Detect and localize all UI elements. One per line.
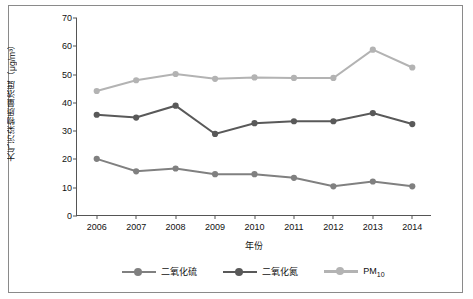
y-axis-tick-mark (73, 131, 77, 132)
y-axis-tick-mark (73, 159, 77, 160)
series-marker (173, 165, 179, 171)
legend-item: PM10 (324, 266, 384, 278)
series-marker (291, 118, 297, 124)
x-axis-tick-mark (333, 215, 334, 219)
series-marker (370, 110, 376, 116)
series-marker (173, 71, 179, 77)
series-marker (330, 183, 336, 189)
legend-label: PM10 (363, 266, 384, 278)
series-marker (94, 156, 100, 162)
y-axis-tick-mark (73, 187, 77, 188)
series-marker (133, 114, 139, 120)
x-axis-tick-mark (175, 215, 176, 219)
series-marker (212, 76, 218, 82)
series-marker (212, 171, 218, 177)
chart-legend: 二氧化硫二氧化氮PM10 (76, 265, 431, 278)
y-axis-tick-mark (73, 18, 77, 19)
series-line (97, 50, 413, 91)
legend-label: 二氧化氮 (262, 265, 298, 278)
y-axis-tick-mark (73, 102, 77, 103)
series-marker (94, 88, 100, 94)
series-marker (133, 168, 139, 174)
x-axis-label: 年份 (76, 239, 431, 252)
x-axis-tick-mark (215, 215, 216, 219)
y-axis-label: 大气污染物质量浓度（μg/m³） (6, 40, 22, 230)
legend-marker (235, 268, 243, 276)
x-axis-tick-mark (412, 215, 413, 219)
plot-area: 0102030405060702006200720082009201020112… (76, 18, 431, 216)
series-marker (409, 183, 415, 189)
series-marker (212, 131, 218, 137)
series-marker (291, 75, 297, 81)
legend-swatch (223, 267, 257, 277)
y-axis-tick-mark (73, 216, 77, 217)
y-axis-tick-mark (73, 46, 77, 47)
y-axis-label-text: 大气污染物质量浓度（μg/m³） (6, 40, 18, 161)
series-line (97, 106, 413, 134)
series-marker (370, 47, 376, 53)
legend-item: 二氧化硫 (122, 265, 197, 278)
series-marker (251, 171, 257, 177)
series-marker (251, 74, 257, 80)
x-axis-tick-mark (293, 215, 294, 219)
series-lines (77, 18, 432, 216)
series-marker (330, 118, 336, 124)
legend-item: 二氧化氮 (223, 265, 298, 278)
series-marker (251, 120, 257, 126)
series-marker (94, 112, 100, 118)
series-marker (409, 64, 415, 70)
series-marker (409, 121, 415, 127)
x-axis-tick-mark (372, 215, 373, 219)
x-axis-tick-mark (254, 215, 255, 219)
legend-label-subscript: 10 (377, 270, 385, 277)
legend-swatch (122, 267, 156, 277)
x-axis-tick-mark (96, 215, 97, 219)
chart-figure: 大气污染物质量浓度（μg/m³） 01020304050607020062007… (0, 0, 473, 299)
legend-swatch (324, 266, 358, 276)
series-marker (330, 75, 336, 81)
x-axis-tick-mark (136, 215, 137, 219)
series-marker (370, 178, 376, 184)
series-marker (173, 103, 179, 109)
series-marker (133, 77, 139, 83)
legend-label: 二氧化硫 (161, 265, 197, 278)
series-marker (291, 175, 297, 181)
legend-marker (134, 268, 142, 276)
legend-marker (336, 267, 344, 275)
y-axis-tick-mark (73, 74, 77, 75)
